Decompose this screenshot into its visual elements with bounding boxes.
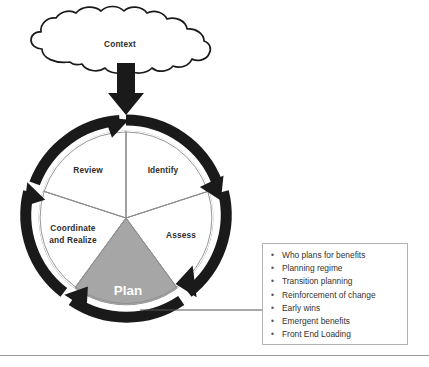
label-review: Review	[73, 165, 103, 175]
list-item: • Front End Loading	[263, 328, 407, 341]
list-item: • Who plans for benefits	[263, 249, 407, 262]
label-assess: Assess	[166, 230, 196, 240]
label-coordinate-line2: and Realize	[49, 235, 97, 245]
bullet-glyph: •	[271, 249, 274, 262]
label-plan: Plan	[114, 283, 143, 298]
bullet-glyph: •	[271, 275, 274, 288]
label-coordinate-line1: Coordinate	[50, 223, 96, 233]
diagram-canvas: Context	[0, 0, 429, 367]
list-item-label: Early wins	[282, 303, 320, 313]
callout-box: • Who plans for benefits • Planning regi…	[262, 243, 408, 345]
bullet-glyph: •	[271, 315, 274, 328]
list-item-label: Who plans for benefits	[282, 250, 365, 260]
list-item: • Transition planning	[263, 275, 407, 288]
cloud-label: Context	[104, 39, 136, 49]
list-item-label: Planning regime	[282, 263, 343, 273]
bullet-glyph: •	[271, 289, 274, 302]
list-item-label: Emergent benefits	[282, 316, 350, 326]
list-item: • Planning regime	[263, 262, 407, 275]
label-identify: Identify	[148, 165, 179, 175]
bottom-divider	[0, 355, 429, 356]
bullet-glyph: •	[271, 302, 274, 315]
list-item-label: Reinforcement of change	[282, 290, 376, 300]
bullet-glyph: •	[271, 262, 274, 275]
list-item-label: Front End Loading	[282, 329, 351, 339]
list-item: • Early wins	[263, 302, 407, 315]
list-item: • Emergent benefits	[263, 315, 407, 328]
bullet-glyph: •	[271, 328, 274, 341]
list-item-label: Transition planning	[282, 276, 352, 286]
list-item: • Reinforcement of change	[263, 289, 407, 302]
callout-list: • Who plans for benefits • Planning regi…	[263, 244, 407, 341]
